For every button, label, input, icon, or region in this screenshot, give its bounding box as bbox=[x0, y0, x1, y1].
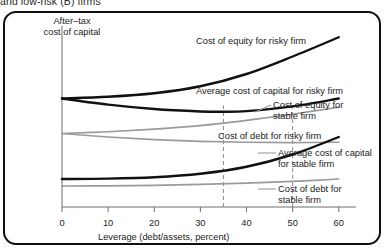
x-tick-label: 60 bbox=[328, 218, 350, 228]
x-axis-label: Leverage (debt/assets, percent) bbox=[98, 232, 229, 242]
x-tick-label: 50 bbox=[282, 218, 304, 228]
x-tick-label: 30 bbox=[189, 218, 211, 228]
label-avg-cost-capital-stable: Average cost of capital for stable firm bbox=[278, 148, 372, 171]
y-axis-label: After–tax cost of capital bbox=[18, 16, 126, 38]
label-cost-of-debt-stable: Cost of debt for stable firm bbox=[278, 184, 342, 207]
x-tick-label: 10 bbox=[97, 218, 119, 228]
x-tick-label: 40 bbox=[236, 218, 258, 228]
label-cost-of-equity-stable: Cost of equity for stable firm bbox=[273, 100, 343, 123]
label-cost-of-equity-risky: Cost of equity for risky firm bbox=[196, 36, 306, 47]
chart-root: and low-risk (B) firms After–tax cost of… bbox=[0, 0, 385, 250]
x-tick-label: 0 bbox=[51, 218, 73, 228]
x-tick-label: 20 bbox=[143, 218, 165, 228]
label-avg-cost-capital-risky: Average cost of capital for risky firm bbox=[196, 86, 343, 97]
label-cost-of-debt-risky: Cost of debt for risky firm bbox=[218, 131, 321, 142]
